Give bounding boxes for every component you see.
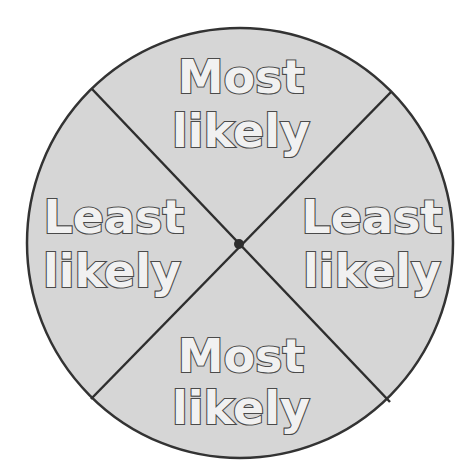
section-right-line1: Least: [302, 190, 443, 244]
section-right-line2: likely: [303, 244, 441, 298]
section-top: Most likely: [172, 50, 310, 158]
probability-spinner: Most likely Least likely Most likely Lea…: [0, 0, 469, 465]
section-left: Least likely: [43, 190, 184, 298]
section-bottom: Most likely: [172, 329, 310, 435]
spinner-hub: [234, 239, 244, 249]
section-bottom-line1: Most: [178, 329, 305, 383]
section-right: Least likely: [302, 190, 443, 298]
section-left-line2: likely: [43, 244, 181, 298]
section-left-line1: Least: [44, 190, 185, 244]
section-top-line2: likely: [172, 104, 310, 158]
section-bottom-line2: likely: [172, 381, 310, 435]
section-top-line1: Most: [178, 50, 305, 104]
